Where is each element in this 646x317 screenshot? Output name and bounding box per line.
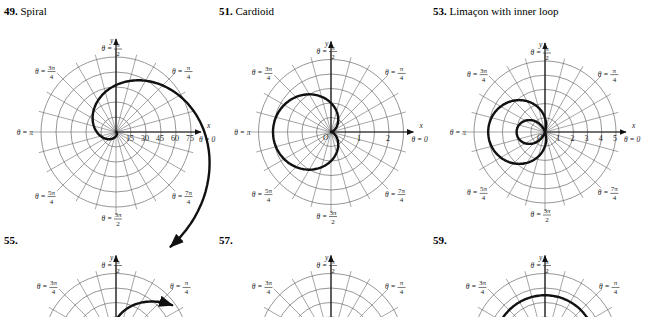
svg-text:θ =: θ =	[37, 282, 48, 291]
grid-radial-line	[116, 92, 185, 132]
label-theta-pi-over-4: θ =π4	[598, 67, 619, 84]
svg-text:2: 2	[116, 220, 120, 228]
grid-radial-line	[116, 132, 137, 209]
radial-tick-label: 4	[599, 134, 603, 143]
grid-radial-line	[116, 132, 156, 201]
label-theta-5pi-over-4: θ =5π4	[35, 189, 56, 206]
label-theta-pi-over-4: θ =π4	[385, 65, 406, 82]
svg-text:2: 2	[116, 50, 120, 58]
svg-text:4: 4	[267, 288, 271, 296]
grid-radial-line	[96, 271, 116, 317]
label-theta-pi: θ = π	[234, 128, 250, 137]
svg-text:θ =: θ =	[385, 68, 396, 77]
label-theta-3pi-over-2: θ =3π2	[101, 211, 122, 228]
svg-text:5π: 5π	[480, 185, 488, 193]
grid-radial-line	[76, 132, 116, 201]
radial-tick-label: 60	[171, 134, 179, 143]
radial-tick-label: 2	[386, 134, 390, 143]
label-theta-3pi-over-4: θ =3π4	[35, 64, 56, 81]
polar-panel-53: 53. Limaçon with inner loopyxθ =π2θ =π4θ…	[433, 5, 640, 224]
polar-panel-55: 55. yxθ =π2θ =π4θ =3π4θ =5π4θ =7π4θ =3π2…	[4, 234, 213, 317]
svg-text:π: π	[613, 67, 617, 75]
grid-radial-line	[507, 66, 545, 132]
svg-text:4: 4	[52, 288, 56, 296]
grid-radial-line	[331, 271, 351, 317]
grid-radial-line	[76, 63, 116, 132]
svg-text:4: 4	[482, 76, 486, 84]
label-theta-5pi-over-4: θ =5π4	[252, 187, 273, 204]
svg-text:π: π	[116, 41, 120, 49]
svg-text:θ =: θ =	[252, 68, 263, 77]
label-theta-pi: θ = π	[17, 128, 33, 137]
svg-text:θ =: θ =	[385, 282, 396, 291]
svg-text:θ =: θ =	[598, 188, 609, 197]
x-axis-label: x	[631, 121, 636, 130]
svg-text:θ =: θ =	[35, 192, 46, 201]
svg-text:θ =: θ =	[101, 214, 112, 223]
svg-text:3π: 3π	[48, 64, 56, 72]
svg-text:θ =: θ =	[101, 261, 112, 270]
grid-radial-line	[116, 111, 193, 132]
radial-tick-label: 5	[613, 134, 617, 143]
svg-text:θ =: θ =	[467, 70, 478, 79]
grid-radial-line	[95, 132, 116, 209]
label-theta-pi-over-4: θ =π4	[385, 279, 406, 296]
svg-text:4: 4	[185, 288, 189, 296]
grid-radial-line	[39, 111, 116, 132]
svg-text:π: π	[116, 258, 120, 266]
svg-text:4: 4	[482, 194, 486, 202]
grid-radial-line	[331, 65, 370, 132]
label-theta-0: θ = 0	[624, 135, 640, 144]
radial-tick-label: 75	[186, 134, 194, 143]
label-theta-pi-over-4: θ =π4	[172, 64, 193, 81]
svg-text:2: 2	[331, 53, 335, 61]
svg-text:7π: 7π	[611, 185, 619, 193]
svg-text:θ =: θ =	[599, 282, 610, 291]
label-theta-7pi-over-4: θ =7π4	[172, 189, 193, 206]
label-theta-5pi-over-4: θ =5π4	[467, 185, 488, 202]
panel-title: 59.	[433, 234, 447, 246]
svg-text:θ =: θ =	[530, 48, 541, 57]
label-theta-3pi-over-4: θ =3π4	[37, 279, 58, 296]
label-theta-3pi-over-4: θ =3π4	[467, 67, 488, 84]
polar-curve	[113, 302, 172, 317]
polar-panel-57: 57. yxθ =π2θ =π4θ =3π4θ =5π4θ =7π4θ =3π2…	[219, 234, 428, 317]
grid-radial-line	[47, 92, 116, 132]
svg-text:θ =: θ =	[466, 282, 477, 291]
grid-radial-line	[331, 75, 388, 132]
radial-tick-label: 1	[556, 134, 560, 143]
svg-text:4: 4	[400, 196, 404, 204]
svg-text:θ =: θ =	[172, 192, 183, 201]
grid-radial-line	[472, 132, 545, 152]
grid-radial-line	[489, 76, 545, 132]
radial-tick-label: 15	[126, 134, 134, 143]
grid-radial-line	[525, 271, 545, 317]
svg-text:π: π	[545, 45, 549, 53]
svg-text:2: 2	[331, 267, 335, 275]
radial-tick-label: 1	[357, 134, 361, 143]
svg-text:π: π	[185, 279, 189, 287]
label-theta-3pi-over-4: θ =3π4	[466, 279, 487, 296]
svg-text:4: 4	[187, 198, 191, 206]
polar-graphs-svg: 49. Spiralyxθ =π2θ =π4θ =3π4θ =5π4θ =7π4…	[0, 0, 646, 317]
grid-radial-line	[39, 132, 116, 153]
svg-text:π: π	[400, 279, 404, 287]
grid-radial-line	[545, 132, 583, 198]
svg-text:θ =: θ =	[530, 210, 541, 219]
label-theta-pi-over-4: θ =π4	[170, 279, 191, 296]
grid-radial-line	[331, 57, 351, 132]
svg-text:π: π	[331, 258, 335, 266]
grid-radial-line	[545, 112, 618, 132]
svg-text:4: 4	[400, 74, 404, 82]
svg-text:7π: 7π	[185, 189, 193, 197]
svg-text:2: 2	[545, 54, 549, 62]
label-theta-pi-over-4: θ =π4	[599, 279, 620, 296]
grid-radial-line	[95, 55, 116, 132]
grid-radial-line	[57, 132, 116, 191]
svg-text:3π: 3π	[479, 279, 487, 287]
svg-text:θ =: θ =	[598, 70, 609, 79]
svg-text:3π: 3π	[114, 211, 122, 219]
svg-text:θ =: θ =	[101, 44, 112, 53]
grid-radial-line	[545, 271, 565, 317]
label-theta-3pi-over-4: θ =3π4	[252, 65, 273, 82]
